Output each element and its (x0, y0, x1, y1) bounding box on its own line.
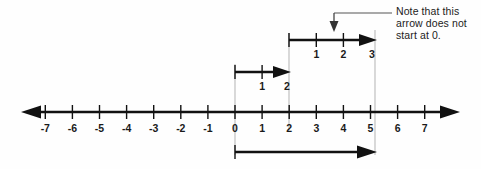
axis-tick-label: 6 (395, 122, 401, 134)
axis-tick-label: -4 (122, 122, 131, 134)
note-callout-text: Note that this arrow does not start at 0… (396, 5, 481, 42)
axis-tick-label: 2 (286, 122, 292, 134)
axis-tick-label: 4 (340, 122, 346, 134)
axis-tick-labels: -7 -6 -5 -4 -3 -2 -1 0 1 2 3 4 5 6 7 (41, 122, 428, 134)
callout-pointer-arrowhead (330, 21, 339, 32)
resultant-vector (235, 145, 377, 159)
axis-tick-label: 7 (422, 122, 428, 134)
second-vector-arrowhead (359, 34, 377, 46)
axis-tick-label: 0 (232, 122, 238, 134)
note-line: Note that this (396, 5, 481, 17)
axis-tick-label: -7 (41, 122, 50, 134)
second-vector-step-label: 3 (369, 48, 375, 60)
first-vector: 1 2 (235, 65, 291, 92)
axis-tick-label: -6 (68, 122, 77, 134)
note-line: start at 0. (396, 29, 481, 41)
second-vector: 1 2 3 (289, 33, 377, 60)
axis-tick-label: 1 (259, 122, 265, 134)
note-callout-pointer (330, 13, 393, 32)
axis-tick-label: 3 (313, 122, 319, 134)
axis-group (21, 106, 460, 119)
first-vector-arrowhead (273, 66, 291, 78)
number-line-figure: -7 -6 -5 -4 -3 -2 -1 0 1 2 3 4 5 6 7 1 2… (0, 0, 481, 169)
axis-left-arrowhead (21, 106, 41, 119)
note-line: arrow does not (396, 17, 481, 29)
second-vector-step-label: 1 (313, 48, 319, 60)
guide-lines (235, 30, 375, 155)
axis-tick-label: -2 (176, 122, 185, 134)
axis-tick-label: -1 (203, 122, 212, 134)
axis-tick-label: -5 (95, 122, 104, 134)
axis-tick-label: -3 (149, 122, 158, 134)
second-vector-step-label: 2 (340, 48, 346, 60)
first-vector-step-label: 1 (259, 80, 265, 92)
axis-tick-label: 5 (368, 122, 374, 134)
axis-right-arrowhead (440, 106, 460, 119)
first-vector-step-label: 2 (284, 80, 290, 92)
resultant-vector-arrowhead (357, 146, 377, 159)
